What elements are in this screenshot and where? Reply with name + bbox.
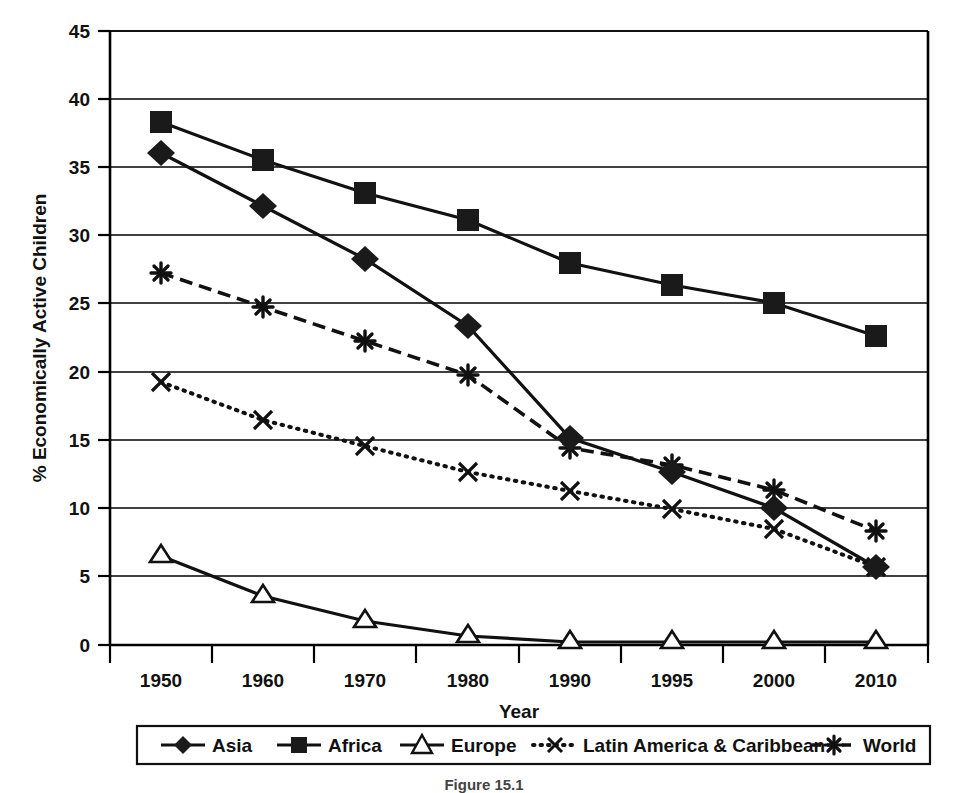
x-tick-label-1980: 1980 (447, 670, 489, 691)
x-tick-label-2010: 2010 (855, 670, 897, 691)
x-tick-label-1990: 1990 (549, 670, 591, 691)
filled-square-icon (291, 737, 307, 753)
y-tick-label-40: 40 (69, 89, 90, 110)
x-tick-label-1970: 1970 (344, 670, 386, 691)
y-tick-label-5: 5 (79, 566, 90, 587)
asterisk-icon (825, 736, 843, 754)
y-axis-title: % Economically Active Children (29, 194, 50, 483)
figure-caption: Figure 15.1 (444, 776, 523, 793)
legend-item-africa[interactable]: Africa (277, 735, 382, 756)
y-tick-label-0: 0 (79, 635, 90, 656)
legend-label-africa: Africa (328, 735, 382, 756)
y-tick-label-20: 20 (69, 362, 90, 383)
y-tick-label-15: 15 (69, 430, 91, 451)
chart-legend: Asia Africa Europe Latin (137, 726, 930, 764)
legend-label-asia: Asia (212, 735, 253, 756)
chart-figure: 45 40 35 30 25 20 15 10 5 0 1950 1960 19… (0, 0, 968, 793)
legend-label-latin-america-caribbean: Latin America & Caribbean (583, 735, 825, 756)
y-tick-label-30: 30 (69, 225, 90, 246)
x-tick-label-1995: 1995 (651, 670, 694, 691)
x-tick-label-2000: 2000 (753, 670, 795, 691)
legend-label-europe: Europe (451, 735, 516, 756)
y-tick-label-45: 45 (69, 21, 91, 42)
legend-label-world: World (863, 735, 916, 756)
x-tick-label-1950: 1950 (140, 670, 182, 691)
x-tick-label-1960: 1960 (242, 670, 284, 691)
x-axis-title: Year (499, 701, 540, 722)
y-tick-label-25: 25 (69, 293, 91, 314)
y-tick-label-10: 10 (69, 498, 90, 519)
y-tick-label-35: 35 (69, 157, 91, 178)
line-chart-svg: 45 40 35 30 25 20 15 10 5 0 1950 1960 19… (0, 0, 968, 793)
